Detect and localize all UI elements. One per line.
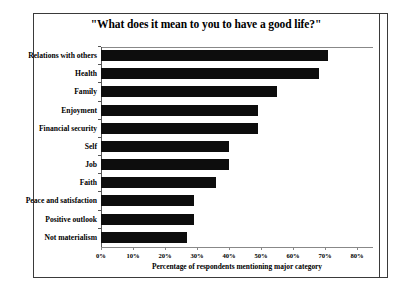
y-axis-tick [98,101,101,102]
bar-row: Self [101,138,357,156]
x-axis-tick [229,247,230,250]
chart-border-right-strip [379,13,388,278]
y-axis-tick [98,46,101,47]
x-axis-tick [165,247,166,250]
bar [101,50,328,61]
y-axis-tick [98,155,101,156]
bar-row: Faith [101,174,357,192]
x-axis-line [101,247,373,248]
x-axis-tick-label: 80% [342,252,372,259]
y-axis-tick [98,191,101,192]
bar [101,177,216,188]
x-axis-tick-label: 20% [150,252,180,259]
bar [101,86,277,97]
bar-row: Financial security [101,120,357,138]
bar [101,141,229,152]
bar-row: Enjoyment [101,102,357,120]
y-axis-tick [98,137,101,138]
x-axis-tick-label: 70% [310,252,340,259]
y-axis-tick [98,119,101,120]
x-axis-tick [325,247,326,250]
y-axis-tick [98,210,101,211]
category-label: Peace and satisfaction [26,192,97,209]
category-label: Job [85,156,97,173]
x-axis-tick-label: 30% [182,252,212,259]
y-axis-tick [98,64,101,65]
x-axis-title: Percentage of respondents mentioning maj… [101,262,373,271]
category-label: Health [75,65,97,82]
category-label: Enjoyment [61,102,97,119]
x-axis-tick [197,247,198,250]
bar-row: Job [101,156,357,174]
bar-row: Family [101,83,357,101]
x-axis-tick [293,247,294,250]
x-axis-tick-label: 60% [278,252,308,259]
x-axis-tick [357,247,358,250]
y-axis-tick [98,228,101,229]
bar-row: Positive outlook [101,211,357,229]
bar [101,105,258,116]
category-label: Financial security [39,120,97,137]
category-label: Family [74,83,97,100]
category-label: Self [85,138,97,155]
bar [101,68,319,79]
bar-row: Relations with others [101,47,357,65]
bar-row: Health [101,65,357,83]
plot-area: Relations with othersHealthFamilyEnjoyme… [101,47,357,247]
category-label: Not materialism [44,229,97,246]
x-axis-tick [101,247,102,250]
bar-row: Not materialism [101,229,357,247]
y-axis-tick [98,82,101,83]
y-axis-tick [98,173,101,174]
bar [101,195,194,206]
x-axis-tick-label: 10% [118,252,148,259]
chart-title: "What does it mean to you to have a good… [33,18,379,30]
category-label: Positive outlook [45,211,97,228]
x-axis-tick-label: 0% [86,252,116,259]
bar [101,214,194,225]
x-axis-tick [261,247,262,250]
bar [101,159,229,170]
category-label: Faith [80,174,97,191]
bar-row: Peace and satisfaction [101,192,357,210]
chart-figure: "What does it mean to you to have a good… [0,0,411,293]
bar [101,123,258,134]
bar [101,232,187,243]
x-axis-tick [133,247,134,250]
x-axis-tick-label: 50% [246,252,276,259]
x-axis-tick-label: 40% [214,252,244,259]
category-label: Relations with others [28,47,97,64]
